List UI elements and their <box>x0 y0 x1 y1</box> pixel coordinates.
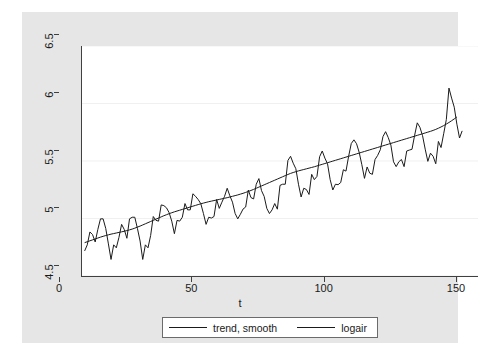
legend-label-trend: trend, smooth <box>213 322 277 334</box>
x-tick-label: 150 <box>436 282 476 294</box>
gridlines <box>82 46 478 276</box>
series-line-trend-smooth <box>85 117 457 243</box>
y-tick-mark <box>54 207 59 208</box>
graph-window: 4.555.566.5 050100150 t trend, smooth lo… <box>0 0 480 358</box>
plot-region <box>81 46 478 277</box>
y-tick-mark <box>54 34 59 35</box>
series-line-logair <box>85 88 463 259</box>
y-tick-mark <box>54 150 59 151</box>
y-tick-label: 6 <box>44 91 55 121</box>
plot-svg <box>82 46 478 276</box>
series-lines <box>85 88 463 259</box>
legend-label-logair: logair <box>341 322 367 334</box>
x-tick-label: 0 <box>39 282 79 294</box>
chart-legend[interactable]: trend, smooth logair <box>162 317 378 338</box>
legend-key-trend <box>169 327 207 328</box>
y-tick-label: 5 <box>44 207 55 237</box>
x-tick-label: 100 <box>304 282 344 294</box>
x-tick-label: 50 <box>171 282 211 294</box>
legend-entry-trend[interactable]: trend, smooth <box>163 318 277 337</box>
y-tick-mark <box>54 92 59 93</box>
y-tick-label: 5.5 <box>44 149 55 179</box>
y-tick-label: 6.5 <box>44 34 55 64</box>
x-axis-title: t <box>22 297 458 309</box>
legend-entry-logair[interactable]: logair <box>291 318 367 337</box>
graph-canvas: 4.555.566.5 050100150 t trend, smooth lo… <box>22 12 458 343</box>
legend-key-logair <box>297 327 335 328</box>
y-tick-mark <box>54 265 59 266</box>
